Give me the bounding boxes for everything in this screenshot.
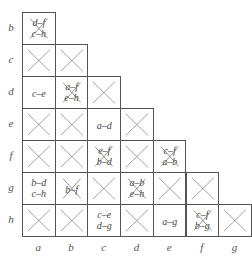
cell-f-c: e–fb–d [87,140,121,173]
row-label-d: d [4,85,18,97]
cell-c-a [22,44,56,77]
col-label-a: a [22,241,55,253]
cross-mark-icon [121,109,153,140]
cross-mark-icon [23,109,55,140]
cell-h-d [120,204,154,237]
cross-mark-icon [56,45,88,76]
cell-h-b [55,204,89,237]
cell-c-b [55,44,89,77]
cross-mark-icon [187,173,219,204]
state-pair: c–h [23,188,55,199]
row-label-e: e [4,117,18,129]
cross-out-icon [56,77,88,108]
cell-e-d [120,108,154,141]
cross-mark-icon [88,77,120,108]
cell-e-c: a–d [87,108,121,141]
col-label-f: f [186,241,219,253]
cell-f-d [120,140,154,173]
cell-f-b [55,140,89,173]
col-label-d: d [120,241,153,253]
row-label-g: g [4,181,18,193]
row-label-f: f [4,149,18,161]
cell-f-a [22,140,56,173]
col-label-e: e [153,241,186,253]
cell-e-a [22,108,56,141]
cell-b-a: d–fc–h [22,12,56,45]
cell-g-b: b–f [55,172,89,205]
cross-mark-icon [121,205,153,236]
state-pair: a–g [154,215,186,226]
cross-mark-icon [88,173,120,204]
cross-out-icon [187,205,219,236]
state-pair: d–g [88,220,120,231]
cell-g-c [87,172,121,205]
col-label-c: c [87,241,120,253]
cell-d-a: c–e [22,76,56,109]
cross-mark-icon [56,109,88,140]
state-pair: c–e [23,87,55,98]
cell-g-f [186,172,220,205]
state-pair: a–d [88,119,120,130]
cross-mark-icon [23,45,55,76]
cross-mark-icon [23,141,55,172]
state-pair: b–d [23,177,55,188]
cell-f-e: c–fa–b [153,140,187,173]
cross-mark-icon [56,205,88,236]
cross-out-icon [154,141,186,172]
cell-h-a [22,204,56,237]
cross-out-icon [23,13,55,44]
row-label-h: h [4,213,18,225]
col-label-g: g [218,241,251,253]
cross-mark-icon [219,205,251,236]
cell-e-b [55,108,89,141]
row-label-c: c [4,53,18,65]
cross-out-icon [56,173,88,204]
row-label-b: b [4,21,18,33]
cell-g-e [153,172,187,205]
cell-d-b: a–fe–h [55,76,89,109]
cross-mark-icon [121,141,153,172]
cell-h-c: c–ed–g [87,204,121,237]
cross-mark-icon [23,205,55,236]
cell-g-d: a–be–h [120,172,154,205]
cell-h-e: a–g [153,204,187,237]
cell-g-a: b–dc–h [22,172,56,205]
cross-out-icon [121,173,153,204]
cross-mark-icon [154,173,186,204]
cell-h-f: c–fb–g [186,204,220,237]
state-pair: c–e [88,209,120,220]
col-label-b: b [55,241,88,253]
cross-mark-icon [56,141,88,172]
cell-d-c [87,76,121,109]
cross-out-icon [88,141,120,172]
cell-h-g [218,204,252,237]
